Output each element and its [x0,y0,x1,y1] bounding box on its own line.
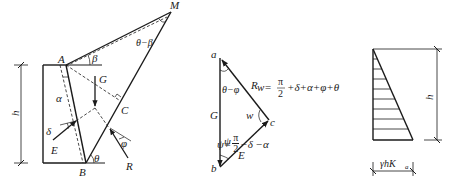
psi-rest: −δ −α [240,138,268,150]
label-G: G [99,73,107,85]
label-theta-minus-beta: θ−β [136,37,153,48]
formula-w-den: 2 [278,88,283,99]
label-C: C [121,104,129,116]
label-theta-minus-phi: θ−φ [222,84,240,95]
label-gamma-h-Ka-subscript: a [405,163,409,171]
formula-w-lhs: w= [257,81,272,93]
backfill-surface-AM [66,12,171,65]
figure-wall-wedge [14,12,171,166]
right-angle-mark-C [115,94,121,97]
label-h: h [9,110,21,116]
figure-pressure-distribution [370,46,442,176]
label-vertex-c: c [270,116,275,128]
formula-psi-overlay: ψ= π 2 −δ −α [217,133,269,154]
w-arc [259,110,261,122]
dashed-centroid-R [95,108,109,128]
label-theta: θ [94,152,100,164]
formula-w: w= π 2 +δ+α+φ+θ [257,76,340,99]
label-alpha: α [56,92,62,104]
figure-2-labels: a b c G E R θ−φ w ψ w= π 2 +δ+α+φ+θ ψ= [210,48,340,174]
label-beta: β [91,52,98,64]
label-force-G: G [210,109,218,121]
label-B: B [79,166,86,178]
slip-plane-BM [86,12,171,163]
label-E: E [50,144,58,156]
label-h-right: h [423,94,435,100]
psi-arc [220,155,229,159]
label-vertex-a: a [211,48,217,60]
label-gamma-h-Ka: γhK [380,158,397,169]
beta-arc [88,55,90,65]
dashed-wall-normal [60,65,83,163]
psi-lhs: ψ= [217,138,231,150]
label-w: w [246,109,254,121]
pressure-hypotenuse [373,49,413,140]
label-delta: δ [46,125,52,137]
psi-fraction: π 2 [232,133,239,154]
label-R: R [125,160,133,172]
dashed-AC [66,65,119,100]
figure-3-labels: h γhK a [380,94,435,171]
label-vertex-b: b [211,162,217,174]
label-phi: φ [121,137,127,149]
diagram-canvas: A B C M G E R α β δ φ θ θ−β h a b c G E … [0,0,456,189]
psi-den: 2 [233,144,238,154]
formula-w-rest: +δ+α+φ+θ [287,81,340,93]
dashed-centroid-E [76,108,95,121]
formula-w-num: π [278,76,283,87]
label-M: M [169,0,180,11]
theta-minus-phi-arc [220,69,228,71]
label-A: A [57,53,65,65]
